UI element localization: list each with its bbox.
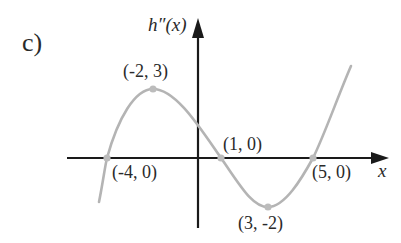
- annotation-neg4-0: (-4, 0): [112, 162, 157, 183]
- point-1-0: [217, 154, 224, 161]
- annotation-neg2-3: (-2, 3): [123, 61, 168, 82]
- y-axis-arrow-icon: [192, 18, 204, 38]
- graph-figure: c) h″(x) x (-2, 3) (1, 0) (-4, 0) (5, 0)…: [0, 0, 401, 243]
- annotation-1-0: (1, 0): [223, 134, 262, 155]
- part-label: c): [22, 28, 42, 58]
- x-axis-label: x: [378, 160, 386, 182]
- point-3-neg2: [264, 203, 271, 210]
- annotation-3-neg2: (3, -2): [238, 213, 283, 234]
- point-neg2-3: [149, 85, 156, 92]
- point-neg4-0: [103, 154, 110, 161]
- annotation-5-0: (5, 0): [312, 162, 351, 183]
- graph-canvas: [0, 0, 401, 243]
- point-5-0: [309, 154, 316, 161]
- y-axis-label: h″(x): [148, 14, 187, 36]
